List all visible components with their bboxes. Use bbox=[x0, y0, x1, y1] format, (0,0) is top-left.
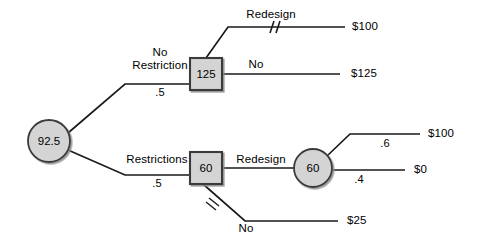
branch-probability-chance-low: .4 bbox=[347, 173, 371, 186]
branch-label-restrictions: Restrictions bbox=[124, 153, 190, 166]
payoff-chance-low: $0 bbox=[414, 163, 427, 176]
payoff-no-top: $125 bbox=[351, 67, 377, 80]
edge-60-no bbox=[203, 184, 338, 221]
branch-probability-no-restriction: .5 bbox=[130, 86, 190, 99]
edge-125-redesign bbox=[206, 27, 345, 58]
payoff-chance-high: $100 bbox=[428, 127, 454, 140]
branch-probability-chance-high: .6 bbox=[373, 137, 397, 150]
node-decision-60-label: 60 bbox=[190, 162, 222, 174]
branch-label-no-restriction-line1: No bbox=[130, 46, 190, 59]
tree-graphics bbox=[0, 0, 482, 249]
payoff-no-bottom: $25 bbox=[347, 214, 367, 227]
branch-label-no-restriction-line2: Restriction bbox=[130, 59, 190, 72]
branch-label-redesign-top: Redesign bbox=[238, 8, 304, 21]
branch-label-no-restriction: No Restriction bbox=[130, 46, 190, 72]
branch-label-redesign-bottom: Redesign bbox=[229, 153, 293, 166]
branch-label-no-bottom: No bbox=[231, 222, 261, 235]
node-chance-60-label: 60 bbox=[294, 162, 332, 174]
pruned-branch-marker-no-bottom bbox=[206, 198, 219, 210]
branch-probability-restrictions: .5 bbox=[124, 177, 190, 190]
branch-label-no-top: No bbox=[241, 58, 271, 71]
node-decision-125-label: 125 bbox=[190, 68, 222, 80]
decision-tree-diagram: 92.5 125 60 60 No Restriction .5 Restric… bbox=[0, 0, 482, 249]
node-root-label: 92.5 bbox=[29, 135, 69, 147]
payoff-redesign-top: $100 bbox=[352, 20, 378, 33]
